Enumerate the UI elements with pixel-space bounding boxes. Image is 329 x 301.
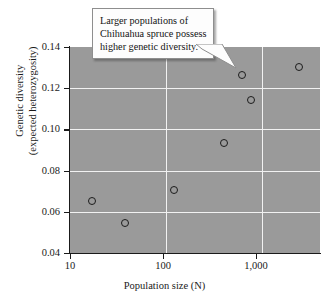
callout-line-2: Chihuahua spruce possess [100, 27, 207, 40]
y-axis-tick-label: 0.04 [24, 248, 60, 259]
gridline-vertical [166, 47, 167, 253]
gridline-horizontal [70, 212, 320, 213]
x-axis-label: Population size (N) [0, 281, 329, 292]
data-point [220, 139, 228, 147]
gridline-horizontal [70, 88, 320, 89]
gridline-horizontal [70, 171, 320, 172]
callout-line-1: Larger populations of [100, 14, 207, 27]
data-point [295, 63, 303, 71]
data-point [238, 71, 246, 79]
y-axis-tick [64, 129, 70, 130]
y-axis-tick [64, 47, 70, 48]
data-point [88, 197, 96, 205]
y-axis-label: Genetic diversity (expected heterozygosi… [14, 6, 40, 196]
x-axis-tick-label: 100 [155, 261, 171, 272]
x-axis-tick [256, 253, 257, 259]
data-point [247, 96, 255, 104]
plot-area [70, 47, 320, 253]
data-point [121, 219, 129, 227]
x-axis-tick [163, 253, 164, 259]
gridline-vertical [262, 47, 263, 253]
y-axis-line [69, 46, 70, 254]
x-axis-tick-label: 1,000 [244, 261, 268, 272]
y-axis-tick [64, 171, 70, 172]
x-axis-tick-label: 10 [65, 261, 76, 272]
y-axis-label-line2: (expected heterozygosity) [27, 6, 40, 196]
x-axis-tick [70, 253, 71, 259]
y-axis-tick [64, 212, 70, 213]
data-point [170, 186, 178, 194]
callout-pointer-icon [196, 44, 238, 70]
callout-line-3: higher genetic diversity. [100, 40, 207, 53]
y-axis-tick-label: 0.06 [24, 207, 60, 218]
y-axis-tick [64, 88, 70, 89]
x-axis-line [69, 253, 321, 254]
scatter-plot-figure: 0.14 0.12 0.10 0.08 0.06 0.04 10 100 1,0… [0, 0, 329, 301]
y-axis-label-line1: Genetic diversity [14, 6, 27, 196]
gridline-horizontal [70, 129, 320, 130]
